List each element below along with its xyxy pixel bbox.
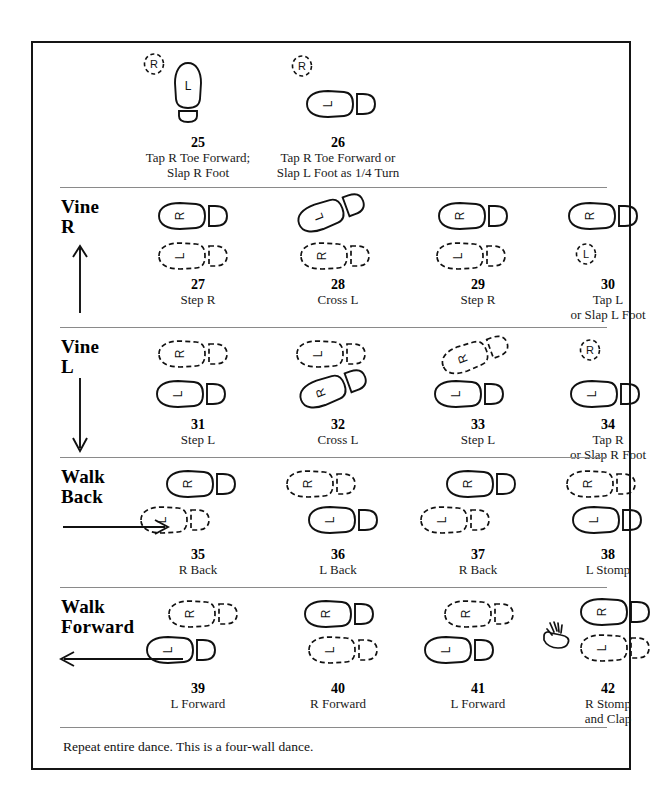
footprint-vertical-l-icon: L [171, 61, 205, 123]
section-walk-back: Walk BackRL35R BackRL36L BackRL37R BackR… [33, 457, 629, 587]
svg-text:L: L [323, 646, 337, 653]
step-number: 40 [263, 681, 413, 696]
step-caption: Tap R Toe Forward or Slap L Foot as 1/4 … [263, 150, 413, 180]
footprint-solid-l-icon: L [153, 377, 231, 411]
svg-text:L: L [161, 646, 175, 653]
step-caption: Step R [123, 292, 273, 307]
svg-text:R: R [173, 349, 187, 358]
footprint-solid-l-icon: L [567, 377, 645, 411]
step-figure: RL [123, 595, 273, 681]
svg-text:L: L [311, 350, 325, 357]
footprint-dashed-r-icon: R [563, 467, 641, 501]
step-41: RL41L Forward [403, 595, 553, 711]
svg-text:R: R [586, 344, 594, 356]
svg-text:R: R [459, 609, 473, 618]
svg-text:L: L [451, 252, 465, 259]
svg-text:R: R [461, 479, 475, 488]
step-34: RL34Tap R or Slap R Foot [533, 335, 660, 462]
section-label-vine-r: Vine R [61, 197, 99, 237]
svg-text:R: R [150, 58, 158, 70]
step-caption: R Forward [263, 696, 413, 711]
footprint-dashed-r-icon: R [434, 325, 519, 384]
svg-text:R: R [583, 211, 597, 220]
svg-text:L: L [173, 252, 187, 259]
tap-mark-r-icon: R [577, 337, 603, 363]
svg-text:L: L [185, 79, 192, 93]
clap-hand-icon [541, 619, 575, 653]
step-35: RL35R Back [123, 465, 273, 577]
section-divider [60, 327, 607, 328]
step-32: LR32Cross L [263, 335, 413, 447]
direction-arrow-down-icon [69, 375, 91, 453]
step-figure: RL [263, 595, 413, 681]
section-divider [60, 187, 607, 188]
step-number: 30 [533, 277, 660, 292]
step-figure: RL [263, 49, 413, 135]
footprint-solid-l-icon: L [290, 183, 375, 242]
step-figure: LR [263, 335, 413, 417]
step-figure: RL [403, 195, 553, 277]
step-number: 25 [123, 135, 273, 150]
svg-text:L: L [585, 390, 599, 397]
svg-text:L: L [321, 100, 335, 107]
svg-text:L: L [583, 248, 589, 260]
svg-text:L: L [435, 516, 449, 523]
svg-text:L: L [439, 646, 453, 653]
section-vine-l: Vine LRL31Step LLR32Cross LRL33Step LRL3… [33, 327, 629, 457]
step-caption: R Stomp and Clap [533, 696, 660, 726]
step-25: RL25Tap R Toe Forward; Slap R Foot [123, 49, 273, 180]
svg-text:L: L [155, 516, 169, 523]
footprint-solid-r-icon: R [155, 199, 233, 233]
step-caption: R Back [123, 562, 273, 577]
svg-text:R: R [183, 609, 197, 618]
step-figure: RL [123, 465, 273, 547]
footprint-dashed-l-icon: L [155, 239, 233, 273]
step-figure: RL [403, 465, 553, 547]
footprint-solid-r-icon: R [443, 467, 521, 501]
footprint-dashed-r-icon: R [297, 239, 375, 273]
svg-text:L: L [323, 516, 337, 523]
step-caption: Cross L [263, 432, 413, 447]
svg-text:R: R [313, 386, 329, 399]
footprint-solid-r-icon: R [435, 199, 513, 233]
footprint-dashed-r-icon: R [155, 337, 233, 371]
step-number: 32 [263, 417, 413, 432]
step-number: 37 [403, 547, 553, 562]
step-27: RL27Step R [123, 195, 273, 307]
svg-text:R: R [181, 479, 195, 488]
step-number: 41 [403, 681, 553, 696]
footprint-solid-l-icon: L [303, 87, 381, 121]
step-figure: RL [123, 335, 273, 417]
footprint-solid-r-icon: R [301, 597, 379, 631]
step-figure: RL [533, 465, 660, 547]
footprint-dashed-l-icon: L [137, 503, 215, 537]
svg-text:L: L [449, 390, 463, 397]
svg-text:R: R [319, 609, 333, 618]
step-38: RL38L Stomp [533, 465, 660, 577]
step-chart-sheet: RL25Tap R Toe Forward; Slap R FootRL26Ta… [31, 41, 631, 770]
step-42: RL42R Stomp and Clap [533, 595, 660, 726]
step-30: RL30Tap L or Slap L Foot [533, 195, 660, 322]
step-figure: LR [263, 195, 413, 277]
step-number: 28 [263, 277, 413, 292]
step-39: RL39L Forward [123, 595, 273, 711]
footprint-solid-l-icon: L [305, 503, 383, 537]
svg-text:R: R [173, 211, 187, 220]
svg-text:R: R [315, 251, 329, 260]
footprint-solid-l-icon: L [143, 633, 221, 667]
step-figure: RL [123, 49, 273, 135]
svg-text:R: R [453, 211, 467, 220]
step-number: 34 [533, 417, 660, 432]
step-29: RL29Step R [403, 195, 553, 307]
footprint-dashed-l-icon: L [305, 633, 383, 667]
step-figure: RL [533, 595, 660, 681]
section-label-vine-l: Vine L [61, 337, 99, 377]
svg-text:L: L [171, 390, 185, 397]
footprint-solid-l-icon: L [421, 633, 499, 667]
step-figure: RL [123, 195, 273, 277]
footprint-solid-r-icon: R [577, 595, 655, 629]
svg-text:R: R [581, 479, 595, 488]
footprint-dashed-l-icon: L [417, 503, 495, 537]
section-vine-r: Vine RRL27Step RLR28Cross LRL29Step RRL3… [33, 187, 629, 327]
footprint-dashed-r-icon: R [165, 597, 243, 631]
